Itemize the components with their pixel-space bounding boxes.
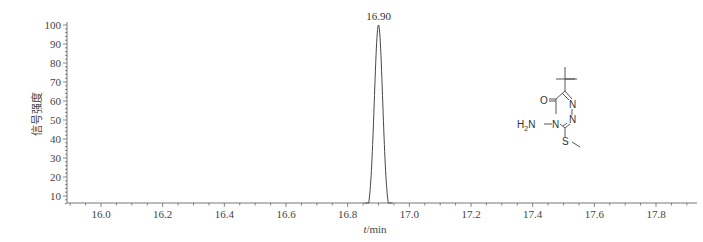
x-axis-title-unit: /min	[366, 223, 387, 235]
x-tick-label: 16.6	[276, 208, 296, 220]
series-line-chromatogram	[365, 25, 393, 203]
y-tick-label: 60	[50, 95, 62, 107]
x-tick-label: 17.4	[523, 208, 543, 220]
x-tick-label: 16.8	[338, 208, 358, 220]
y-tick-label: 30	[50, 152, 62, 164]
structure-labels: O N N N H2N S	[517, 95, 576, 147]
chromatogram-chart: 102030405060708090100 16.016.216.416.616…	[0, 0, 703, 242]
amino-label: H2N	[517, 119, 535, 132]
y-tick-label: 100	[45, 19, 62, 31]
n1-label: N	[569, 99, 576, 110]
y-tick-label: 50	[50, 114, 62, 126]
y-tick-label: 90	[50, 38, 62, 50]
x-tick-label: 17.2	[461, 208, 480, 220]
x-tick-label: 17.6	[585, 208, 605, 220]
y-tick-label: 40	[50, 133, 62, 145]
y-axis: 102030405060708090100	[45, 19, 68, 204]
n2-label: N	[569, 114, 576, 125]
x-axis: 16.016.216.416.616.817.017.217.417.617.8	[67, 203, 697, 220]
x-tick-label: 17.8	[646, 208, 666, 220]
y-tick-label: 80	[50, 57, 62, 69]
y-tick-label: 10	[50, 190, 62, 202]
x-tick-label: 16.2	[153, 208, 172, 220]
n4-label: N	[552, 119, 559, 130]
sulfur-label: S	[562, 136, 569, 147]
x-tick-label: 17.0	[400, 208, 420, 220]
x-tick-label: 16.0	[91, 208, 111, 220]
plot-area: 16.90	[365, 10, 393, 203]
oxygen-label: O	[540, 95, 548, 106]
y-axis-title: 信号强度	[30, 92, 43, 136]
x-tick-label: 16.4	[215, 208, 235, 220]
y-tick-label: 20	[50, 171, 62, 183]
x-axis-title: t/min	[363, 223, 387, 235]
y-tick-label: 70	[50, 76, 62, 88]
peak-label: 16.90	[366, 10, 391, 22]
